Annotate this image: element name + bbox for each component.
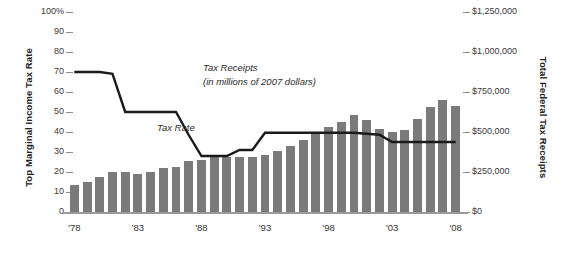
x-tick-label-2003: '03 <box>386 222 398 233</box>
right-tick-label-500000: $500,000 <box>472 127 510 136</box>
left-tick-label-90: 90 <box>20 27 64 36</box>
left-tick-label-50: 50 <box>20 107 64 116</box>
right-tick-mark-1000000 <box>463 52 470 53</box>
left-axis-tick-labels: 0102030405060708090100% <box>20 0 64 256</box>
right-tick-mark-1250000 <box>463 12 470 13</box>
plot-area <box>68 12 462 212</box>
right-tick-label-1000000: $1,000,000 <box>472 47 517 56</box>
chart-container: Top Marginal Income Tax Rate Total Feder… <box>0 0 565 256</box>
left-tick-label-60: 60 <box>20 87 64 96</box>
x-axis-line <box>62 212 468 214</box>
x-tick-label-1983: '83 <box>132 222 144 233</box>
annotation-tax-receipts-line1: Tax Receipts <box>203 62 258 73</box>
left-tick-label-20: 20 <box>20 167 64 176</box>
right-tick-mark-250000 <box>463 172 470 173</box>
x-tick-label-1998: '98 <box>322 222 334 233</box>
right-tick-label-750000: $750,000 <box>472 87 510 96</box>
left-tick-label-80: 80 <box>20 47 64 56</box>
right-tick-label-250000: $250,000 <box>472 167 510 176</box>
left-tick-label-40: 40 <box>20 127 64 136</box>
x-tick-label-1978: '78 <box>68 222 80 233</box>
left-tick-label-70: 70 <box>20 67 64 76</box>
annotation-tax-receipts-line2: (in millions of 2007 dollars) <box>203 76 316 87</box>
right-axis-tick-labels: $0$250,000$500,000$750,000$1,000,000$1,2… <box>472 0 542 256</box>
x-tick-label-2008: '08 <box>449 222 461 233</box>
annotation-tax-rate: Tax Rate <box>157 122 195 133</box>
line-series-tax-rate <box>68 12 462 212</box>
left-tick-label-0: 0 <box>20 207 64 216</box>
right-tick-label-1250000: $1,250,000 <box>472 7 517 16</box>
right-tick-label-0: $0 <box>472 207 482 216</box>
right-tick-mark-500000 <box>463 132 470 133</box>
right-tick-mark-750000 <box>463 92 470 93</box>
left-tick-label-10: 10 <box>20 187 64 196</box>
x-tick-label-1993: '93 <box>259 222 271 233</box>
x-tick-label-1988: '88 <box>195 222 207 233</box>
x-axis-tick-labels: '78'83'88'93'98'03'08 <box>68 222 462 242</box>
left-tick-label-30: 30 <box>20 147 64 156</box>
left-tick-label-100: 100% <box>20 7 64 16</box>
